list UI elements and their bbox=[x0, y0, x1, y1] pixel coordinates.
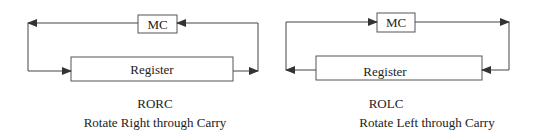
rolc-mnemonic: ROLC bbox=[361, 96, 411, 112]
rolc-diagram: MC Register bbox=[286, 13, 509, 80]
rolc-register-label: Register bbox=[363, 64, 407, 79]
rorc-mnemonic: RORC bbox=[130, 96, 180, 112]
rolc-carry-label: MC bbox=[386, 15, 406, 30]
rorc-register-label: Register bbox=[130, 62, 174, 77]
rorc-carry-label: MC bbox=[147, 17, 167, 32]
rolc-description: Rotate Left through Carry bbox=[327, 115, 527, 131]
rorc-diagram: MC Register bbox=[28, 15, 258, 81]
rorc-description: Rotate Right through Carry bbox=[55, 115, 255, 131]
